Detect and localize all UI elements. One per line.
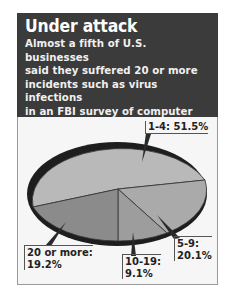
label-1-4: 1-4: 51.5%: [145, 121, 208, 134]
label-5-9: 5-9: 20.1%: [174, 236, 212, 261]
label-10-19: 10-19: 9.1%: [122, 254, 161, 279]
label-20-plus: 20 or more: 19.2%: [24, 245, 93, 270]
